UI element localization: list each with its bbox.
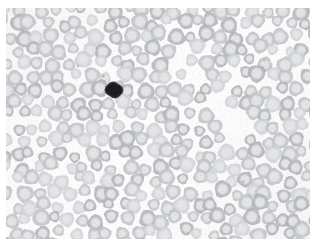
blood-smear-micrograph — [0, 0, 318, 249]
micrograph-viewport — [0, 0, 318, 249]
